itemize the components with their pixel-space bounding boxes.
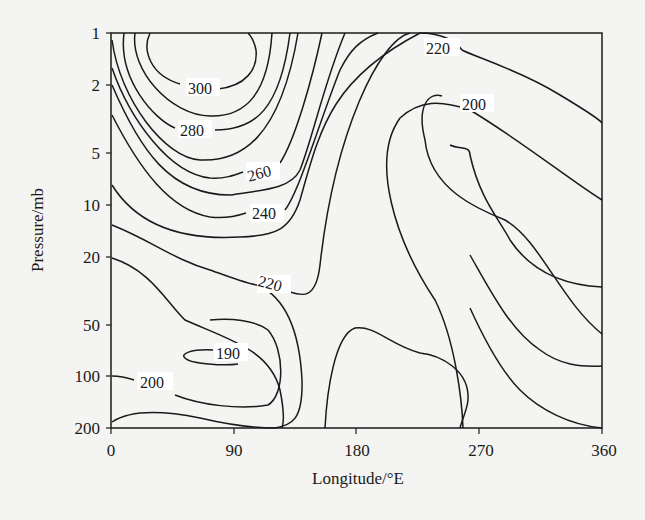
y-tick: 1 — [92, 24, 101, 43]
y-tick: 2 — [92, 76, 101, 95]
y-tick: 100 — [75, 367, 101, 386]
x-tick: 180 — [344, 441, 370, 460]
contour-label-190: 190 — [216, 345, 240, 362]
contour-lines — [112, 33, 602, 428]
y-tick: 20 — [83, 248, 100, 267]
contour-label-300: 300 — [188, 80, 212, 97]
y-tick: 5 — [92, 144, 101, 163]
contour-label-200-left: 200 — [140, 374, 164, 391]
y-tick: 10 — [83, 196, 100, 215]
contour-label-280: 280 — [180, 122, 204, 139]
contour-label-240: 240 — [252, 205, 276, 222]
x-tick: 360 — [591, 441, 617, 460]
plot-frame — [111, 33, 602, 428]
x-tick: 90 — [226, 441, 243, 460]
x-tick: 0 — [107, 441, 116, 460]
contour-chart: 300 280 260 240 220 220 200 200 190 — [0, 0, 645, 520]
x-axis-label: Longitude/°E — [312, 469, 404, 488]
y-tick: 200 — [75, 419, 101, 438]
x-tick: 270 — [468, 441, 494, 460]
contour-label-200-right: 200 — [462, 96, 486, 113]
y-axis-label: Pressure/mb — [28, 188, 47, 272]
y-tick: 50 — [83, 316, 100, 335]
contour-label-220-right: 220 — [426, 40, 450, 57]
